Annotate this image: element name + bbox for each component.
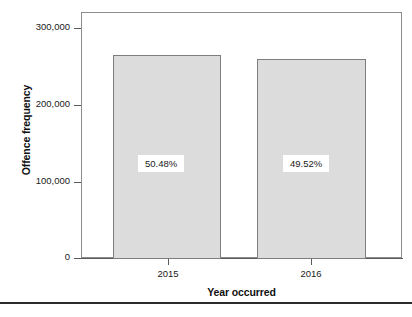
y-tick-mark	[74, 182, 81, 183]
y-tick-label: 0	[65, 251, 70, 262]
bar-label-2015: 50.48%	[138, 155, 184, 172]
y-axis-title: Offence frequency	[20, 50, 32, 210]
bar-label-2016: 49.52%	[283, 155, 329, 172]
y-tick-mark	[74, 105, 81, 106]
y-tick-label: 200,000	[36, 98, 70, 109]
y-tick-label: 300,000	[36, 21, 70, 32]
x-axis-title: Year occurred	[81, 286, 402, 298]
x-tick-label: 2016	[281, 268, 341, 279]
bar-chart: Offence frequency 300,000 200,000 100,00…	[0, 0, 412, 317]
y-tick-mark	[74, 28, 81, 29]
x-tick-mark	[168, 259, 169, 265]
bottom-divider	[0, 302, 412, 304]
x-tick-mark	[311, 259, 312, 265]
x-tick-label: 2015	[138, 268, 198, 279]
y-tick-label: 100,000	[36, 175, 70, 186]
y-tick-mark	[74, 258, 81, 259]
